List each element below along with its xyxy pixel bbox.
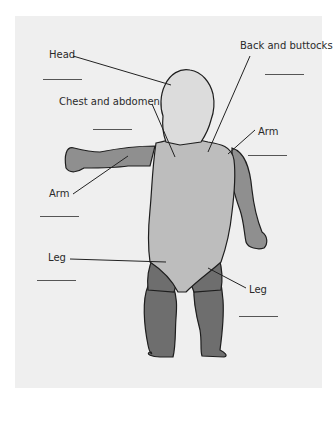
label-head: Head (49, 49, 75, 61)
answer-blank-head[interactable] (43, 79, 82, 80)
answer-blank-leg-left[interactable] (37, 280, 76, 281)
label-chest-and-abdomen: Chest and abdomen (59, 96, 160, 108)
answer-blank-arm-right[interactable] (248, 155, 287, 156)
head-region (161, 70, 214, 145)
leg-right-region (194, 285, 226, 357)
answer-blank-back[interactable] (265, 74, 304, 75)
child-body-figure (0, 0, 335, 426)
answer-blank-chest[interactable] (93, 129, 132, 130)
answer-blank-leg-right[interactable] (239, 316, 278, 317)
label-back-and-buttocks: Back and buttocks (240, 40, 333, 52)
label-leg-left: Leg (48, 252, 66, 264)
arm-right-region (232, 148, 267, 249)
leg-left-region (144, 282, 176, 357)
label-arm-left: Arm (49, 188, 70, 200)
label-leg-right: Leg (249, 284, 267, 296)
label-arm-right: Arm (258, 126, 279, 138)
answer-blank-arm-left[interactable] (40, 216, 79, 217)
